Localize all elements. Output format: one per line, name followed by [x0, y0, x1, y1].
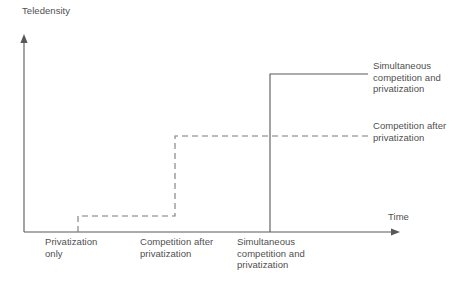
- x-category-label-privatization-only: Privatization only: [45, 236, 97, 259]
- solid-step-line: [270, 74, 368, 232]
- x-axis-title: Time: [388, 211, 409, 223]
- diagram-canvas: Teledensity Time Simultaneous competitio…: [0, 0, 472, 283]
- dashed-step-line: [78, 136, 368, 232]
- x-category-label-competition-after-privatization: Competition after privatization: [140, 236, 213, 259]
- x-category-label-simultaneous-competition-and-privatization: Simultaneous competition and privatizati…: [237, 236, 305, 271]
- series-label-competition-after: Competition after privatization: [373, 120, 446, 143]
- series-label-simultaneous: Simultaneous competition and privatizati…: [373, 60, 441, 95]
- y-axis-arrow-icon: [20, 34, 27, 43]
- x-axis-arrow-icon: [391, 228, 400, 235]
- y-axis-title: Teledensity: [22, 5, 70, 17]
